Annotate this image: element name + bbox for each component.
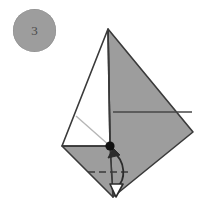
reference-point-dot: [105, 141, 114, 150]
diagram-canvas: 3: [0, 0, 201, 203]
gray-right-panel: [108, 29, 193, 197]
origami-diagram: [0, 0, 201, 203]
white-left-panel: [62, 29, 110, 146]
